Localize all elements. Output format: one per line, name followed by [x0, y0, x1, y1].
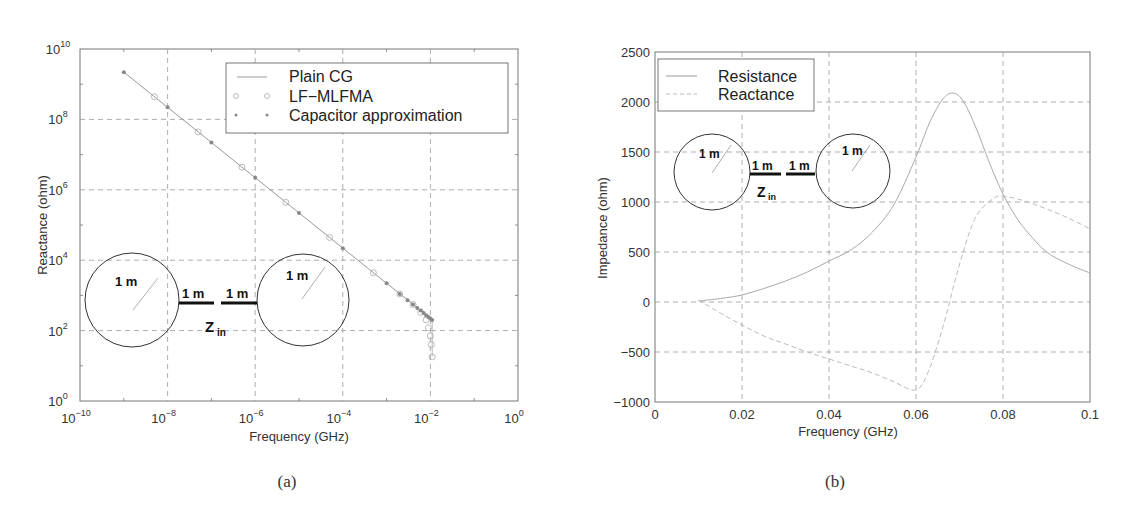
y-tick-label: 0 — [643, 295, 650, 310]
x-tick-label: 10−2 — [414, 408, 439, 426]
y-tick-label: −1000 — [613, 395, 650, 410]
marker-star — [253, 176, 257, 180]
y-tick-label: −500 — [621, 345, 650, 360]
chart-b: 00.020.040.060.080.1−1000−50005001000150… — [595, 45, 1099, 491]
x-tick-label: 100 — [504, 408, 523, 426]
y-tick-label: 108 — [48, 109, 67, 127]
legend-box — [658, 59, 814, 111]
marker-star — [122, 70, 126, 74]
legend-label-lf-mlfma: LF−MLFMA — [289, 88, 373, 105]
x-tick-label: 0.06 — [903, 407, 928, 422]
y-tick-label: 2000 — [621, 95, 650, 110]
x-tick-label: 10−8 — [151, 408, 176, 426]
chart-b-legend: Resistance Reactance — [658, 59, 814, 111]
chart-a-legend: Plain CG LF−MLFMA Capacitor approximatio… — [226, 63, 508, 133]
y-tick-label: 1500 — [621, 145, 650, 160]
port-label-z: Z — [757, 184, 766, 200]
legend-star-marker-icon — [235, 114, 238, 117]
y-tick-label: 1010 — [46, 39, 70, 57]
x-tick-label: 10−10 — [61, 408, 91, 426]
chart-b-ylabel: Impedance (ohm) — [595, 177, 610, 279]
y-tick-label: 106 — [48, 180, 67, 198]
y-tick-label: 100 — [48, 391, 67, 409]
marker-star — [405, 298, 409, 302]
x-tick-label: 0.02 — [729, 407, 754, 422]
port-label-sub: in — [768, 192, 776, 202]
legend-star-marker-icon — [266, 114, 269, 117]
x-tick-label: 0 — [651, 407, 658, 422]
port-label-z: Z — [205, 318, 214, 335]
caption-b: (b) — [825, 472, 845, 491]
y-tick-label: 500 — [628, 245, 650, 260]
marker-star — [341, 246, 345, 250]
marker-star — [415, 306, 419, 310]
wire-right-label: 1 m — [789, 159, 810, 173]
x-tick-label: 0.08 — [990, 407, 1015, 422]
x-tick-label: 10−4 — [326, 408, 351, 426]
x-tick-label: 0.04 — [816, 407, 841, 422]
y-tick-label: 102 — [48, 321, 67, 339]
marker-star — [166, 105, 170, 109]
x-tick-label: 0.1 — [1081, 407, 1099, 422]
wire-left-label: 1 m — [752, 159, 773, 173]
caption-a: (a) — [278, 472, 297, 491]
y-tick-label: 1000 — [621, 195, 650, 210]
chart-a: 10−1010−810−610−410−21001001021041061081… — [35, 39, 524, 491]
sphere-right-radius-label: 1 m — [842, 144, 863, 158]
wire-right-label: 1 m — [226, 286, 248, 301]
y-tick-label: 2500 — [621, 45, 650, 60]
sphere-left-radius-label: 1 m — [699, 147, 720, 161]
sphere-left-radius-label: 1 m — [115, 274, 137, 289]
chart-b-xlabel: Frequency (GHz) — [798, 424, 898, 439]
sphere-right-radius-label: 1 m — [286, 268, 308, 283]
wire-left-label: 1 m — [182, 286, 204, 301]
port-label-sub: in — [217, 327, 226, 338]
y-tick-label: 104 — [48, 250, 67, 268]
marker-star — [297, 211, 301, 215]
marker-star — [209, 141, 213, 145]
legend-label-plain-cg: Plain CG — [289, 68, 353, 85]
marker-star — [430, 318, 434, 322]
legend-label-capacitor-approximation: Capacitor approximation — [289, 107, 462, 124]
figure: 10−1010−810−610−410−21001001021041061081… — [0, 0, 1129, 516]
legend-label-reactance: Reactance — [718, 86, 795, 103]
chart-a-xlabel: Frequency (GHz) — [249, 429, 349, 444]
marker-star — [398, 292, 402, 296]
chart-a-ylabel: Reactance (ohm) — [35, 175, 50, 275]
legend-label-resistance: Resistance — [718, 68, 797, 85]
marker-star — [385, 281, 389, 285]
marker-star — [411, 303, 415, 307]
x-tick-label: 10−6 — [239, 408, 264, 426]
